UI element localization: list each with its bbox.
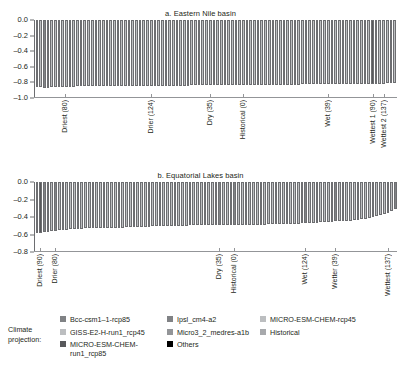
- legend-item[interactable]: Micro3_2_medres-a1b: [167, 328, 249, 337]
- legend-swatch-icon: [260, 316, 266, 322]
- panel-b-title: b. Equatorial Lakes basin: [0, 170, 401, 182]
- x-category-label: Drier (124): [147, 100, 155, 133]
- y-tick-label: –0.6: [13, 231, 28, 239]
- y-tick-label: 0.0: [18, 178, 28, 186]
- legend-item-label: Ipsl_cm4-a2: [177, 315, 216, 324]
- panel-b-axes: [34, 182, 397, 252]
- panel-a-plot: 0.0–0.2–0.4–0.6–0.8–1.0: [0, 20, 401, 98]
- panel-b-plot: 0.0–0.2–0.4–0.6–0.8: [0, 182, 401, 252]
- x-category-label: Historical (0): [239, 100, 247, 139]
- x-tick-mark: [234, 248, 235, 252]
- legend-item-label: Historical: [270, 328, 300, 337]
- panel-a-bars: [35, 20, 397, 98]
- legend-item[interactable]: MICRO-ESM-CHEM- run1_rcp85: [60, 340, 145, 358]
- y-tick-label: –0.6: [13, 63, 28, 71]
- legend-column: Ipsl_cm4-a2Micro3_2_medres-a1bOthers: [167, 315, 249, 353]
- x-tick-mark: [328, 94, 329, 98]
- panel-b-y-axis: 0.0–0.2–0.4–0.6–0.8: [0, 182, 34, 252]
- bar: [394, 182, 398, 252]
- panel-a-title: a. Eastern Nile basin: [0, 8, 401, 20]
- panel-b-bars: [35, 182, 397, 252]
- bar-fill: [394, 182, 397, 209]
- x-tick-mark: [335, 248, 336, 252]
- x-tick-mark: [40, 248, 41, 252]
- legend-item-label: MICRO-ESM-CHEM-rcp45: [270, 315, 356, 324]
- y-tick-label: –0.2: [13, 196, 28, 204]
- y-tick-label: –0.4: [13, 213, 28, 221]
- legend-item[interactable]: Bcc-csm1–1-rcp85: [60, 315, 145, 324]
- legend-item-label: Others: [177, 340, 199, 349]
- legend: Climate projection: Bcc-csm1–1-rcp85GISS…: [0, 313, 401, 379]
- x-tick-mark: [55, 248, 56, 252]
- x-category-label: Wettest 2 (137): [380, 100, 388, 148]
- x-category-label: Wettest 1 (90): [369, 100, 377, 144]
- legend-column: Bcc-csm1–1-rcp85GISS-E2-H-run1_rcp45MICR…: [60, 315, 145, 362]
- chart-panel-eastern-nile: a. Eastern Nile basin 0.0–0.2–0.4–0.6–0.…: [0, 8, 401, 162]
- legend-swatch-icon: [60, 341, 66, 347]
- x-tick-mark: [384, 94, 385, 98]
- y-tick-label: 0.0: [18, 16, 28, 24]
- x-category-label: Dry (35): [215, 254, 223, 279]
- panel-a-y-axis: 0.0–0.2–0.4–0.6–0.8–1.0: [0, 20, 34, 98]
- x-category-label: Historical (0): [230, 254, 238, 293]
- legend-title: Climate projection:: [8, 325, 60, 345]
- legend-swatch-icon: [260, 329, 266, 335]
- panel-a-axes: [34, 20, 397, 98]
- legend-swatch-icon: [167, 329, 173, 335]
- legend-item-label: Micro3_2_medres-a1b: [177, 328, 249, 337]
- x-category-label: Drier (80): [51, 254, 59, 284]
- x-category-label: Dry (35): [206, 100, 214, 125]
- y-tick-label: –0.8: [13, 79, 28, 87]
- x-category-label: Driest (80): [61, 100, 69, 133]
- bar: [393, 20, 397, 98]
- x-tick-mark: [305, 248, 306, 252]
- legend-swatch-icon: [60, 329, 66, 335]
- x-category-label: Driest (90): [36, 254, 44, 287]
- y-tick-label: –0.8: [13, 248, 28, 256]
- y-tick-label: –0.2: [13, 32, 28, 40]
- y-tick-label: –1.0: [13, 94, 28, 102]
- x-category-label: Wetter (39): [331, 254, 339, 289]
- legend-item-label: Bcc-csm1–1-rcp85: [70, 315, 130, 324]
- bar-fill: [393, 20, 396, 83]
- x-tick-mark: [373, 94, 374, 98]
- x-tick-mark: [65, 94, 66, 98]
- legend-column: MICRO-ESM-CHEM-rcp45Historical: [260, 315, 356, 340]
- legend-item[interactable]: GISS-E2-H-run1_rcp45: [60, 328, 145, 337]
- x-tick-mark: [388, 248, 389, 252]
- legend-swatch-icon: [60, 316, 66, 322]
- panel-b-category-labels: Driest (90)Drier (80)Dry (35)Historical …: [34, 252, 397, 316]
- x-tick-mark: [219, 248, 220, 252]
- legend-item-label: MICRO-ESM-CHEM- run1_rcp85: [70, 340, 138, 358]
- x-tick-mark: [151, 94, 152, 98]
- x-category-label: Wet (39): [324, 100, 332, 127]
- x-category-label: Wettest (137): [384, 254, 392, 296]
- legend-item[interactable]: Historical: [260, 328, 356, 337]
- x-tick-mark: [243, 94, 244, 98]
- legend-item-label: GISS-E2-H-run1_rcp45: [70, 328, 145, 337]
- chart-panel-equatorial-lakes: b. Equatorial Lakes basin 0.0–0.2–0.4–0.…: [0, 170, 401, 316]
- y-tick-label: –0.4: [13, 47, 28, 55]
- legend-swatch-icon: [167, 341, 173, 347]
- x-category-label: Wet (124): [301, 254, 309, 285]
- legend-swatch-icon: [167, 316, 173, 322]
- legend-item[interactable]: Ipsl_cm4-a2: [167, 315, 249, 324]
- figure-root: a. Eastern Nile basin 0.0–0.2–0.4–0.6–0.…: [0, 0, 401, 379]
- x-tick-mark: [210, 94, 211, 98]
- panel-a-category-labels: Driest (80)Drier (124)Dry (35)Historical…: [34, 98, 397, 162]
- legend-item[interactable]: Others: [167, 340, 249, 349]
- legend-item[interactable]: MICRO-ESM-CHEM-rcp45: [260, 315, 356, 324]
